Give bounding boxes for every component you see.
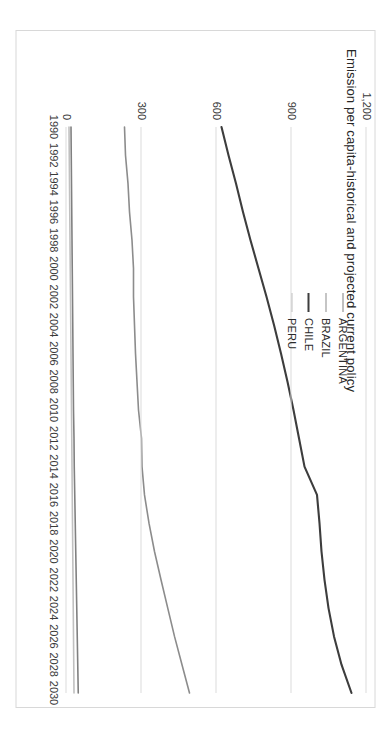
gridline [140,127,141,693]
chart-page: Emission per capita-historical and proje… [0,0,389,736]
y-axis-tick-label: 0 [60,114,72,120]
x-axis-tick-label: 2028 [47,652,59,676]
y-axis-tick-label: 300 [135,102,147,120]
y-axis-tick-label: 1,200 [360,92,372,120]
chart-frame: Emission per capita-historical and proje… [15,30,375,708]
legend-item-label: CHILE [303,318,315,351]
legend-line-icon [325,293,326,312]
x-axis-tick-label: 2006 [47,341,59,365]
legend-line-icon [291,293,292,312]
x-axis-tick-label: 2022 [47,568,59,592]
x-axis-tick-label: 1998 [47,228,59,252]
gridline [215,127,216,693]
legend-item-label: BRAZIL [320,318,332,358]
legend-item-peru[interactable]: PERU [284,293,299,384]
legend-line-icon [342,293,343,312]
x-axis-tick-label: 2018 [47,511,59,535]
x-axis-tick-label: 2004 [47,313,59,337]
x-axis-tick-label: 2026 [47,624,59,648]
x-axis-tick-label: 1992 [47,143,59,167]
chart-legend: ARGENTINABRAZILCHILEPERU [284,293,350,384]
x-axis-tick-label: 2000 [47,256,59,280]
gridline [65,127,66,693]
x-axis-tick-label: 2024 [47,596,59,620]
legend-item-label: ARGENTINA [337,318,349,384]
x-axis-tick-label: 1996 [47,200,59,224]
x-axis-tick-label: 2014 [47,454,59,478]
x-axis-tick-label: 2016 [47,483,59,507]
y-axis-tick-label: 600 [210,102,222,120]
chart-stage: Emission per capita-historical and proje… [0,0,389,736]
x-axis-tick-label: 2002 [47,285,59,309]
x-axis-tick-label: 1990 [47,115,59,139]
x-axis-tick-label: 2030 [47,681,59,705]
series-line-chile [221,127,351,693]
legend-item-label: PERU [286,318,298,349]
plot-area: 03006009001,2001990199219941996199820002… [66,127,366,693]
legend-item-brazil[interactable]: BRAZIL [318,293,333,384]
legend-line-icon [308,293,310,312]
series-line-brazil [124,127,189,693]
legend-item-chile[interactable]: CHILE [301,293,316,384]
gridline [365,127,366,693]
x-axis-tick-label: 1994 [47,171,59,195]
gridline [290,127,291,693]
x-axis-tick-label: 2010 [47,398,59,422]
x-axis-tick-label: 2012 [47,426,59,450]
x-axis-tick-label: 2008 [47,369,59,393]
legend-item-argentina[interactable]: ARGENTINA [335,293,350,384]
y-axis-tick-label: 900 [285,102,297,120]
x-axis-tick-label: 2020 [47,539,59,563]
